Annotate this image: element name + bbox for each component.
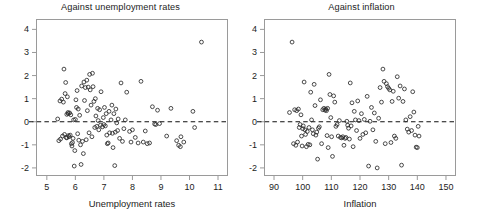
x-axis-title-right: Inflation bbox=[264, 198, 456, 209]
y-tick-label: -1 bbox=[21, 140, 29, 150]
x-tick-label: 110 bbox=[324, 182, 338, 192]
y-tick-label: 4 bbox=[24, 24, 29, 34]
y-tick-label: 0 bbox=[24, 117, 29, 127]
x-tick-label: 100 bbox=[295, 182, 310, 192]
y-tick-label: -2 bbox=[21, 163, 29, 173]
y-tick-label: 1 bbox=[24, 94, 29, 104]
y-tick-label: -1 bbox=[249, 140, 257, 150]
y-tick-label: 4 bbox=[252, 24, 257, 34]
y-tick-label: 3 bbox=[252, 47, 257, 57]
x-tick-label: 8 bbox=[130, 182, 135, 192]
x-tick-label: 11 bbox=[213, 182, 222, 192]
y-tick-label: -2 bbox=[249, 163, 257, 173]
residual-scatter-figure: Against unemployment rates 5678910114321… bbox=[0, 0, 482, 217]
x-tick-label: 6 bbox=[73, 182, 78, 192]
x-tick-label: 120 bbox=[352, 182, 367, 192]
y-tick-label: 3 bbox=[24, 47, 29, 57]
x-tick-label: 9 bbox=[158, 182, 163, 192]
panel-against-inflation: Against inflation 9010011012013014015043… bbox=[241, 0, 482, 217]
panel-against-unemployment: Against unemployment rates 5678910114321… bbox=[0, 0, 241, 217]
x-tick-label: 7 bbox=[101, 182, 106, 192]
y-tick-label: 2 bbox=[252, 71, 257, 81]
x-tick-label: 150 bbox=[438, 182, 453, 192]
y-tick-label: 2 bbox=[24, 71, 29, 81]
y-tick-label: 1 bbox=[252, 94, 257, 104]
y-tick-label: 0 bbox=[252, 117, 257, 127]
x-tick-label: 130 bbox=[381, 182, 396, 192]
scatter-layer-left bbox=[0, 0, 241, 217]
x-tick-label: 140 bbox=[410, 182, 425, 192]
x-tick-label: 90 bbox=[269, 182, 279, 192]
x-axis-title-left: Unemployment rates bbox=[36, 198, 228, 209]
x-tick-label: 10 bbox=[184, 182, 194, 192]
x-tick-label: 5 bbox=[44, 182, 49, 192]
